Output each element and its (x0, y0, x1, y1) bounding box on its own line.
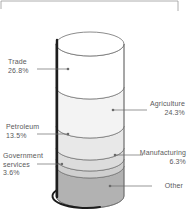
callout-trade-name: Trade (8, 58, 29, 67)
callout-other: Other (165, 182, 183, 191)
chart-canvas: Trade 26.8% Agriculture 24.3% Petroleum … (0, 0, 189, 220)
callout-other-name: Other (165, 182, 183, 191)
callout-trade: Trade 26.8% (8, 58, 29, 75)
callout-agriculture: Agriculture 24.3% (150, 100, 185, 117)
callout-agriculture-name: Agriculture (150, 100, 185, 109)
callout-petroleum: Petroleum 13.5% (6, 123, 39, 140)
callout-trade-pct: 26.8% (8, 67, 29, 76)
callout-agriculture-pct: 24.3% (150, 109, 185, 118)
page-frame-fragment (1, 1, 178, 11)
cylinder-top-cap (56, 32, 124, 56)
callout-government-services-name-line2: services (3, 161, 43, 170)
callout-petroleum-pct: 13.5% (6, 132, 39, 141)
callout-manufacturing: Manufacturing 6.3% (140, 149, 186, 166)
callout-manufacturing-name: Manufacturing (140, 149, 186, 158)
callout-government-services-name-line1: Government (3, 152, 43, 161)
callout-government-services: Government services 3.6% (3, 152, 43, 178)
callout-manufacturing-pct: 6.3% (140, 158, 186, 167)
callout-petroleum-name: Petroleum (6, 123, 39, 132)
callout-government-services-pct: 3.6% (3, 169, 43, 178)
